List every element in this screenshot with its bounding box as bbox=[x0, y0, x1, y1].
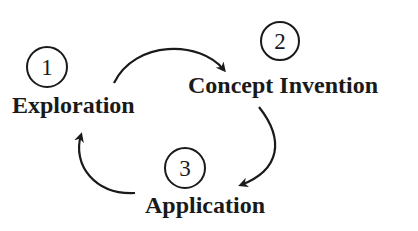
step-1-number: 1 bbox=[33, 56, 61, 79]
step-3-number: 3 bbox=[171, 157, 199, 180]
arrow-application-to-exploration bbox=[79, 135, 135, 193]
step-2-label: Concept Invention bbox=[188, 73, 378, 97]
step-1-label: Exploration bbox=[12, 93, 135, 117]
step-3-label: Application bbox=[145, 193, 265, 217]
learning-cycle-diagram: 1 2 3 Exploration Concept Invention Appl… bbox=[0, 0, 418, 231]
step-2-number: 2 bbox=[266, 30, 294, 53]
arrow-concept-to-application bbox=[241, 107, 275, 185]
